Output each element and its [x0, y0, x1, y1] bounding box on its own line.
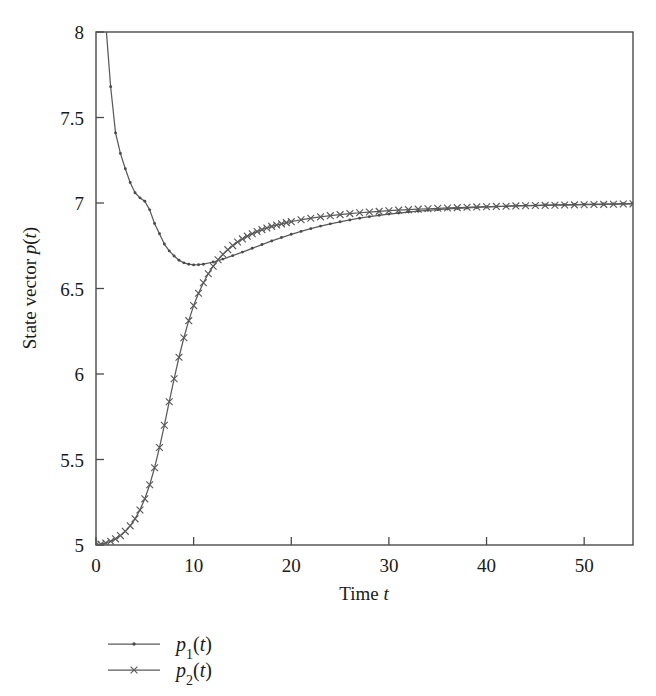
y-tick-label: 7.5	[60, 108, 84, 129]
legend-label-1: p1(t)	[174, 633, 212, 662]
data-point-marker	[300, 230, 303, 233]
data-point-marker	[397, 212, 400, 215]
data-point-marker	[368, 215, 371, 218]
data-point-marker	[124, 167, 127, 170]
data-point-marker	[210, 263, 217, 270]
y-tick-label: 6.5	[60, 279, 84, 300]
series-1	[96, 0, 634, 266]
data-point-marker	[190, 302, 197, 309]
series-2	[93, 200, 637, 548]
data-point-marker	[251, 247, 254, 250]
data-point-marker	[132, 515, 139, 522]
data-point-marker	[319, 225, 322, 228]
data-point-marker	[268, 223, 275, 230]
data-point-marker	[119, 152, 122, 155]
data-point-marker	[290, 233, 293, 236]
data-point-marker	[231, 254, 234, 257]
y-tick-label: 7	[75, 193, 85, 214]
data-point-marker	[200, 279, 207, 286]
x-tick-label: 0	[91, 555, 101, 576]
data-point-marker	[212, 261, 215, 264]
data-point-marker	[146, 481, 153, 488]
data-point-marker	[141, 495, 148, 502]
data-point-marker	[143, 200, 146, 203]
data-point-marker	[261, 243, 264, 246]
y-tick-label: 5.5	[60, 450, 84, 471]
x-tick-label: 20	[282, 555, 301, 576]
data-point-marker	[158, 232, 161, 235]
data-point-marker	[205, 270, 212, 277]
data-point-marker	[134, 191, 137, 194]
data-point-marker	[129, 181, 132, 184]
y-axis-ticks: 55.566.577.58	[60, 22, 104, 556]
data-point-marker	[339, 220, 342, 223]
legend-marker-dot	[132, 642, 135, 645]
legend-label-2: p2(t)	[174, 659, 212, 688]
data-point-marker	[270, 240, 273, 243]
data-point-marker	[195, 290, 202, 297]
data-point-marker	[153, 222, 156, 225]
data-point-marker	[127, 522, 134, 529]
series-line-2	[96, 204, 633, 545]
x-tick-label: 40	[477, 555, 496, 576]
y-tick-label: 8	[75, 22, 85, 43]
series-line-1	[96, 0, 633, 265]
x-tick-label: 10	[184, 555, 203, 576]
plot-frame	[96, 32, 633, 545]
data-point-marker	[182, 261, 185, 264]
data-point-marker	[187, 263, 190, 266]
data-point-marker	[378, 214, 381, 217]
data-point-marker	[148, 208, 151, 211]
data-point-marker	[109, 85, 112, 88]
data-point-marker	[168, 249, 171, 252]
series-layer	[93, 0, 637, 548]
data-point-marker	[387, 213, 390, 216]
data-point-marker	[221, 258, 224, 261]
state-vector-line-chart: 01020304050 55.566.577.58 Time t State v…	[0, 0, 656, 696]
data-point-marker	[114, 131, 117, 134]
x-axis-ticks: 01020304050	[91, 537, 593, 576]
data-point-marker	[280, 236, 283, 239]
x-tick-label: 30	[379, 555, 398, 576]
data-point-marker	[348, 218, 351, 221]
y-tick-label: 6	[75, 364, 85, 385]
chart-legend: p1(t)p2(t)	[108, 633, 212, 688]
data-point-marker	[192, 263, 195, 266]
data-point-marker	[178, 259, 181, 262]
data-point-marker	[138, 196, 141, 199]
data-point-marker	[163, 243, 166, 246]
data-point-marker	[137, 507, 144, 514]
x-tick-label: 50	[575, 555, 594, 576]
data-point-marker	[329, 222, 332, 225]
data-point-marker	[241, 251, 244, 254]
data-point-marker	[173, 255, 176, 258]
data-point-marker	[202, 263, 205, 266]
x-axis-title: Time t	[339, 583, 389, 604]
y-tick-label: 5	[75, 535, 85, 556]
y-axis-title: State vector p(t)	[19, 227, 41, 349]
data-point-marker	[229, 242, 236, 249]
data-point-marker	[197, 263, 200, 266]
data-point-marker	[185, 317, 192, 324]
data-point-marker	[358, 217, 361, 220]
chart-figure: 01020304050 55.566.577.58 Time t State v…	[0, 0, 656, 696]
data-point-marker	[309, 227, 312, 230]
